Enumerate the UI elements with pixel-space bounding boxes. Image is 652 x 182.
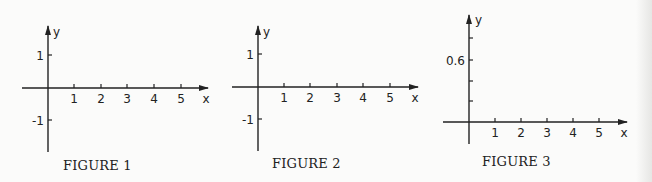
x-tick-label: 2	[306, 91, 314, 105]
x-tick-label: 3	[543, 126, 551, 140]
x-tick-label: 4	[359, 91, 367, 105]
x-tick-label: 5	[177, 92, 185, 106]
x-axis-label: x	[620, 126, 627, 140]
y-tick-label: -1	[32, 114, 44, 128]
x-tick-label: 2	[517, 126, 525, 140]
x-ticks	[469, 38, 599, 122]
x-axis-label: x	[202, 92, 209, 106]
y-tick-label: -1	[242, 113, 254, 127]
y-tick-label: 1	[246, 48, 254, 62]
figure-caption: FIGURE 1	[63, 158, 132, 173]
x-tick-label: 4	[569, 126, 577, 140]
figure-caption: FIGURE 3	[482, 154, 551, 169]
x-tick-label: 2	[97, 92, 105, 106]
x-tick-label: 1	[70, 92, 78, 106]
figure-1: 1 2 3 4 5 x y 1 -1 FIGURE 1	[22, 25, 210, 173]
figure-2: 1 2 3 4 5 x y 1 -1 FIGURE 2	[232, 25, 419, 171]
x-tick-label: 1	[280, 91, 288, 105]
figure-3: 1 2 3 4 5 x y 0.6 FIGURE 3	[443, 13, 628, 169]
x-tick-label: 3	[123, 92, 131, 106]
x-tick-label: 3	[333, 91, 341, 105]
y-axis-label: y	[53, 25, 60, 39]
x-axis-label: x	[411, 91, 418, 105]
x-tick-label: 4	[150, 92, 158, 106]
figure-caption: FIGURE 2	[272, 156, 341, 171]
x-tick-label: 1	[491, 126, 499, 140]
y-tick-label: 1	[36, 49, 44, 63]
y-axis-label: y	[475, 13, 482, 27]
y-tick-label: 0.6	[446, 54, 465, 68]
y-axis-label: y	[263, 25, 270, 39]
figures-canvas: 1 2 3 4 5 x y 1 -1 FIGURE 1 1 2 3 4 5 x …	[0, 0, 652, 182]
x-tick-label: 5	[386, 91, 394, 105]
x-tick-label: 5	[595, 126, 603, 140]
